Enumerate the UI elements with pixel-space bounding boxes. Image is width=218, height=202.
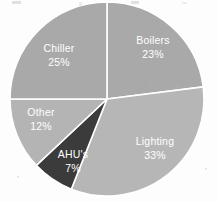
pie-label-chiller-value: 25%	[48, 56, 70, 68]
pie-label-boilers-name: Boilers	[136, 34, 170, 46]
scan-artifact-mark	[79, 2, 82, 6]
pie-label-other-value: 12%	[30, 120, 52, 132]
pie-label-other-name: Other	[27, 106, 55, 118]
pie-label-boilers-value: 23%	[142, 48, 164, 60]
pie-label-lighting-value: 33%	[144, 149, 166, 161]
scan-artifact-mark	[182, 2, 187, 4]
scan-speckle	[137, 118, 139, 120]
scan-artifact-mark	[131, 1, 139, 4]
pie-label-ahus-value: 7%	[65, 162, 81, 174]
pie-label-lighting-name: Lighting	[136, 135, 174, 147]
scan-speckle	[114, 99, 116, 101]
scan-speckle	[17, 176, 19, 178]
pie-chart-figure: Boilers 23% Lighting 33% AHU's 7% Other …	[0, 0, 218, 202]
pie-label-chiller-name: Chiller	[43, 42, 74, 54]
pie-label-ahus-name: AHU's	[58, 148, 88, 160]
scan-speckle	[150, 82, 152, 84]
scan-speckle	[176, 86, 178, 88]
scan-artifact-mark	[12, 1, 21, 4]
pie-chart-svg: Boilers 23% Lighting 33% AHU's 7% Other …	[0, 0, 218, 202]
pie-slices	[10, 2, 204, 196]
scan-speckle	[205, 168, 207, 170]
